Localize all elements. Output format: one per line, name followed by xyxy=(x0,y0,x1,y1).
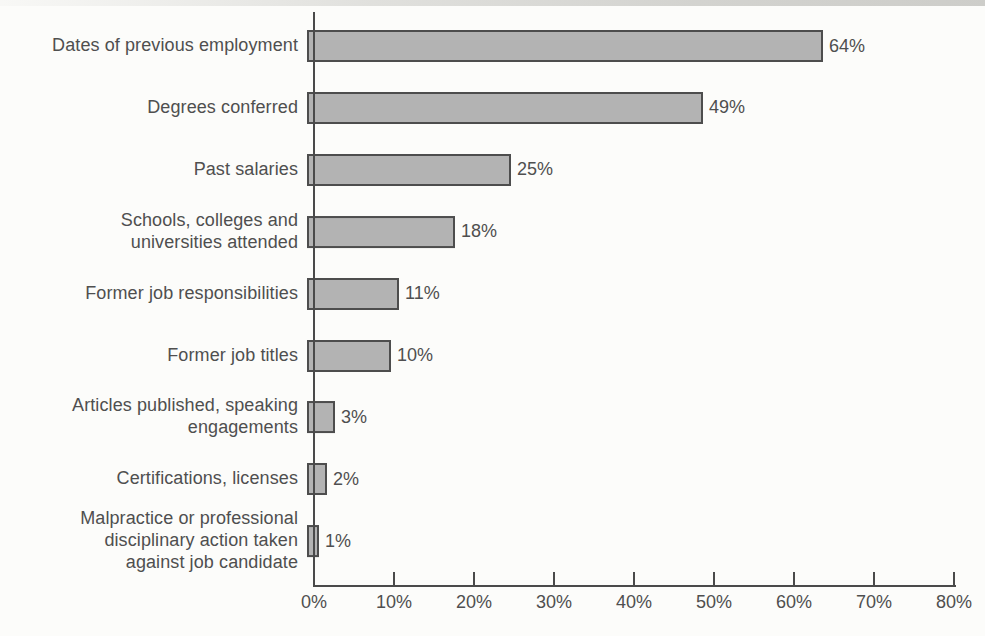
bar xyxy=(307,401,335,433)
bar-row: Degrees conferred49% xyxy=(0,92,985,124)
bar-row: Malpractice or professional disciplinary… xyxy=(0,508,985,574)
bar-row: Former job titles10% xyxy=(0,340,985,372)
bar xyxy=(307,463,327,495)
x-axis-tick-label: 80% xyxy=(922,592,985,613)
x-axis-tick-label: 20% xyxy=(442,592,506,613)
x-axis-tick-label: 50% xyxy=(682,592,746,613)
category-label: Former job responsibilities xyxy=(0,283,307,305)
x-axis-tick xyxy=(873,572,875,585)
bar-row: Dates of previous employment64% xyxy=(0,30,985,62)
horizontal-bar-chart: Dates of previous employment64%Degrees c… xyxy=(0,0,985,636)
category-label: Schools, colleges and universities atten… xyxy=(0,210,307,254)
x-axis-tick xyxy=(793,572,795,585)
x-axis-tick xyxy=(553,572,555,585)
value-label: 49% xyxy=(709,97,745,118)
x-axis-tick xyxy=(953,572,955,585)
x-axis-tick-label: 10% xyxy=(362,592,426,613)
category-label: Past salaries xyxy=(0,159,307,181)
y-axis-line xyxy=(313,12,315,585)
category-label: Certifications, licenses xyxy=(0,468,307,490)
x-axis-tick-label: 30% xyxy=(522,592,586,613)
bar xyxy=(307,216,455,248)
bar xyxy=(307,30,823,62)
category-label: Articles published, speaking engagements xyxy=(0,395,307,439)
value-label: 10% xyxy=(397,345,433,366)
category-label: Malpractice or professional disciplinary… xyxy=(0,508,307,574)
x-axis-tick-label: 60% xyxy=(762,592,826,613)
value-label: 2% xyxy=(333,469,359,490)
x-axis-tick xyxy=(633,572,635,585)
value-label: 1% xyxy=(325,531,351,552)
bar-row: Certifications, licenses2% xyxy=(0,463,985,495)
bar xyxy=(307,278,399,310)
x-axis-tick xyxy=(393,572,395,585)
x-axis-tick xyxy=(473,572,475,585)
value-label: 64% xyxy=(829,36,865,57)
value-label: 3% xyxy=(341,407,367,428)
value-label: 11% xyxy=(405,283,440,304)
value-label: 18% xyxy=(461,221,497,242)
bar-row: Past salaries25% xyxy=(0,154,985,186)
category-label: Dates of previous employment xyxy=(0,35,307,57)
category-label: Degrees conferred xyxy=(0,97,307,119)
x-axis-tick-label: 70% xyxy=(842,592,906,613)
bar-row: Former job responsibilities11% xyxy=(0,278,985,310)
x-axis-tick xyxy=(713,572,715,585)
bar xyxy=(307,340,391,372)
x-axis-tick-label: 40% xyxy=(602,592,666,613)
bar-row: Schools, colleges and universities atten… xyxy=(0,210,985,254)
x-axis-line xyxy=(313,585,956,587)
bar-row: Articles published, speaking engagements… xyxy=(0,395,985,439)
bar xyxy=(307,92,703,124)
scanned-chart-page: Dates of previous employment64%Degrees c… xyxy=(0,0,985,636)
value-label: 25% xyxy=(517,159,553,180)
x-axis-tick-label: 0% xyxy=(282,592,346,613)
bar xyxy=(307,154,511,186)
category-label: Former job titles xyxy=(0,345,307,367)
